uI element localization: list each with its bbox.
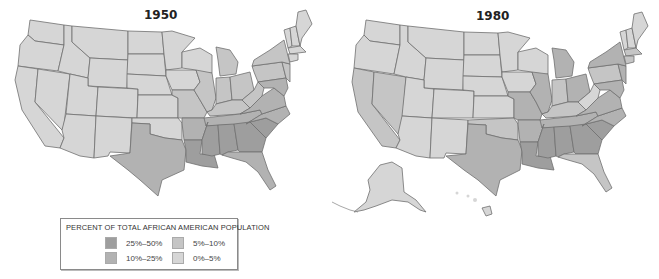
state-michigan bbox=[552, 48, 574, 78]
swatch-0-5 bbox=[172, 252, 184, 264]
state-arizona bbox=[60, 114, 96, 158]
hawaii-island bbox=[456, 192, 459, 195]
state-massachusetts bbox=[624, 48, 642, 56]
state-new-mexico bbox=[430, 118, 468, 158]
us-map-1950 bbox=[0, 0, 330, 210]
state-florida bbox=[558, 154, 612, 192]
state-new-york bbox=[252, 40, 290, 66]
legend-item-25-50: 25%–50% bbox=[105, 237, 162, 249]
legend: PERCENT OF TOTAL AFRICAN AMERICAN POPULA… bbox=[60, 218, 238, 270]
state-connecticut bbox=[624, 56, 634, 64]
state-indiana bbox=[216, 77, 232, 104]
state-hawaii bbox=[482, 206, 492, 216]
state-colorado bbox=[432, 89, 474, 118]
legend-item-10-25: 10%–25% bbox=[105, 252, 162, 264]
state-iowa bbox=[502, 72, 536, 92]
state-north-dakota bbox=[464, 32, 500, 55]
state-michigan bbox=[216, 47, 238, 76]
state-new-mexico bbox=[94, 116, 132, 158]
legend-label: 25%–50% bbox=[126, 239, 162, 248]
hawaii-island bbox=[467, 195, 470, 198]
state-wyoming bbox=[88, 58, 128, 88]
state-kansas bbox=[473, 96, 514, 118]
state-connecticut bbox=[288, 54, 298, 62]
swatch-5-10 bbox=[172, 237, 184, 249]
legend-label: 0%–5% bbox=[193, 254, 221, 263]
state-south-dakota bbox=[127, 54, 166, 76]
legend-label: 5%–10% bbox=[193, 239, 225, 248]
state-colorado bbox=[96, 87, 138, 118]
legend-item-5-10: 5%–10% bbox=[172, 237, 225, 249]
legend-title: PERCENT OF TOTAL AFRICAN AMERICAN POPULA… bbox=[66, 223, 269, 232]
legend-item-0-5: 0%–5% bbox=[172, 252, 221, 264]
swatch-10-25 bbox=[105, 252, 117, 264]
state-iowa bbox=[166, 70, 200, 90]
us-map-1980 bbox=[330, 0, 659, 279]
state-north-dakota bbox=[128, 31, 164, 54]
swatch-25-50 bbox=[105, 237, 117, 249]
state-arizona bbox=[396, 116, 432, 158]
aleutian-islands bbox=[332, 202, 358, 212]
state-florida bbox=[222, 152, 276, 190]
hawaii-island bbox=[473, 198, 477, 202]
state-new-york bbox=[588, 42, 626, 68]
state-kansas bbox=[137, 95, 178, 118]
state-south-dakota bbox=[463, 55, 502, 77]
legend-label: 10%–25% bbox=[126, 254, 162, 263]
state-alaska bbox=[354, 162, 426, 212]
state-wyoming bbox=[424, 58, 464, 90]
state-massachusetts bbox=[288, 46, 306, 54]
state-indiana bbox=[552, 79, 568, 106]
